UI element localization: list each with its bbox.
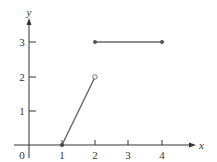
y-ticks <box>29 42 36 111</box>
y-axis-arrow-icon <box>27 18 32 25</box>
closed-dot-icon <box>60 143 64 147</box>
y-tick-label: 3 <box>19 36 25 48</box>
y-tick-label: 2 <box>19 71 25 83</box>
x-tick-label: 3 <box>125 149 131 161</box>
chart: 1 2 3 4 1 2 3 0 x y <box>0 0 217 162</box>
x-axis-label: x <box>198 139 204 151</box>
y-tick-label: 1 <box>19 105 25 117</box>
x-ticks <box>62 140 162 145</box>
x-tick-label: 2 <box>92 149 98 161</box>
open-dot-icon <box>93 75 97 79</box>
closed-dot-icon <box>93 40 97 44</box>
x-tick-label: 4 <box>159 149 165 161</box>
x-tick-label: 1 <box>59 149 65 161</box>
origin-label: 0 <box>19 149 25 161</box>
segment-1-line <box>62 77 95 145</box>
x-axis-arrow-icon <box>189 143 196 148</box>
y-axis-label: y <box>26 6 32 18</box>
closed-dot-icon <box>160 40 164 44</box>
